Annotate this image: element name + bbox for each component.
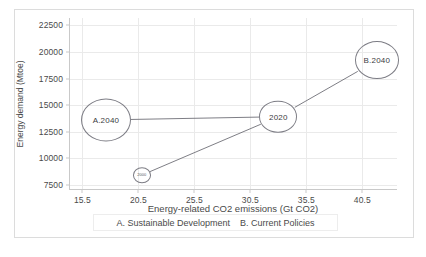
x-tick-label: 30.5 [242,195,259,205]
x-tick-label: 35.5 [298,195,315,205]
x-tick-label: 25.5 [186,195,203,205]
y-tick-label: 10000 [39,153,63,163]
y-tick-label: 22500 [39,20,63,30]
y-tick-label: 15000 [39,100,63,110]
data-bubble[interactable]: A.2040 [81,98,131,141]
data-bubble[interactable]: B.2040 [355,42,399,80]
y-tick-label: 20000 [39,47,63,57]
x-tick-mark [138,190,139,193]
y-tick-label: 12500 [39,127,63,137]
legend-entry: A. Sustainable Development [116,218,230,228]
y-tick-label: 7500 [44,180,63,190]
y-axis-label: Energy demand (Mtoe) [15,61,25,148]
data-bubble[interactable]: 2020 [259,100,297,133]
connector-line [131,117,259,119]
data-bubble-label: 2000 [137,173,146,178]
chart-legend: A. Sustainable DevelopmentB. Current Pol… [93,214,338,231]
connector-line [150,124,261,171]
x-tick-label: 20.5 [130,195,147,205]
data-bubble-label: 2020 [269,112,288,121]
x-axis-label: Energy-related CO2 emissions (Gt CO2) [148,203,319,214]
connector-line [295,71,358,107]
x-tick-mark [82,190,83,193]
x-tick-mark [306,190,307,193]
plot-area: 7500100001250015000175002000022500 15.52… [69,18,397,190]
x-tick-mark [362,190,363,193]
data-bubble-label: A.2040 [93,115,120,124]
x-tick-label: 40.5 [354,195,371,205]
x-tick-mark [250,190,251,193]
chart-figure: Energy demand (Mtoe) Energy-related CO2 … [0,0,426,257]
data-bubble-label: B.2040 [364,56,391,65]
x-tick-label: 15.5 [74,195,91,205]
y-tick-label: 17500 [39,74,63,84]
legend-entry: B. Current Policies [240,218,315,228]
x-tick-mark [194,190,195,193]
